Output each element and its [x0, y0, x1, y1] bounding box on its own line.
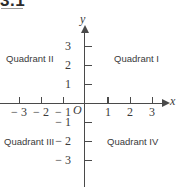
y-axis-label: y	[80, 12, 85, 27]
y-axis-line	[84, 30, 85, 187]
origin-label: O	[73, 103, 82, 118]
y-tick-mark	[85, 160, 92, 161]
y-tick-mark	[85, 141, 92, 142]
quadrant-label-2: Quadrant II	[6, 53, 54, 64]
coordinate-plane-figure: 3.1 x y O − 3 − 2 − 1 1 2 3 3 2	[0, 0, 180, 187]
quadrant-label-1: Quadrant I	[114, 53, 159, 64]
quadrant-label-3: Quadrant III	[4, 136, 54, 147]
y-tick-mark	[85, 122, 92, 123]
x-axis-label: x	[170, 94, 175, 109]
y-tick-label: − 3	[0, 153, 71, 168]
x-tick-mark	[41, 97, 42, 104]
x-tick-mark	[107, 97, 108, 104]
x-tick-label: 2	[127, 105, 133, 120]
x-tick-mark	[63, 97, 64, 104]
y-tick-mark	[85, 46, 92, 47]
y-tick-mark	[85, 65, 92, 66]
x-tick-label: 3	[149, 105, 155, 120]
y-tick-label: 3	[0, 39, 71, 54]
x-tick-label: 1	[105, 105, 111, 120]
x-tick-mark	[152, 97, 153, 104]
quadrant-label-4: Quadrant IV	[107, 136, 158, 147]
y-tick-mark	[85, 84, 92, 85]
x-tick-mark	[19, 97, 20, 104]
graph-canvas: x y O − 3 − 2 − 1 1 2 3 3 2 1 − 1 − 2 − …	[0, 0, 180, 187]
x-tick-mark	[130, 97, 131, 104]
y-tick-label: 1	[0, 77, 71, 92]
y-tick-label: − 1	[0, 115, 71, 130]
x-axis-arrow-icon	[162, 99, 170, 107]
